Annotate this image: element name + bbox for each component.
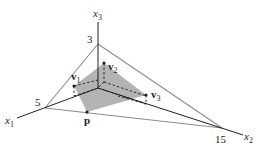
diagram-canvas: x3 x1 x2 3 5 15 v1 v2 v3 p <box>0 0 261 154</box>
x2-intercept-label: 15 <box>215 133 227 145</box>
x3-axis-label: x3 <box>92 7 102 22</box>
point-v2 <box>102 61 105 64</box>
v1-label: v1 <box>71 70 81 85</box>
x1-intercept-label: 5 <box>35 96 41 108</box>
v3-label: v3 <box>151 88 161 103</box>
p-label: p <box>84 114 90 126</box>
x3-intercept-label: 3 <box>87 33 93 45</box>
x2-axis-label: x2 <box>243 130 253 145</box>
point-v3 <box>144 93 147 96</box>
point-v1 <box>72 84 75 87</box>
plane-edge-5-15 <box>45 108 222 128</box>
x1-axis-label: x1 <box>4 114 14 129</box>
